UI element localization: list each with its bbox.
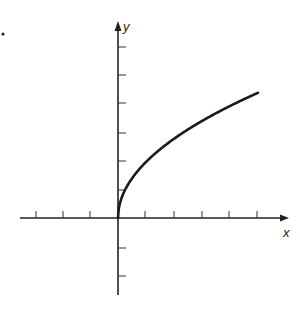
y-axis-label: y (122, 19, 131, 34)
x-ticks (36, 211, 257, 218)
x-axis-label: x (282, 225, 290, 240)
x-axis-arrow-icon (280, 215, 289, 222)
curve (118, 93, 258, 218)
bullet-dot (1, 32, 4, 35)
chart: y x (0, 0, 300, 328)
y-axis-arrow-icon (115, 21, 122, 31)
y-ticks (118, 47, 126, 276)
